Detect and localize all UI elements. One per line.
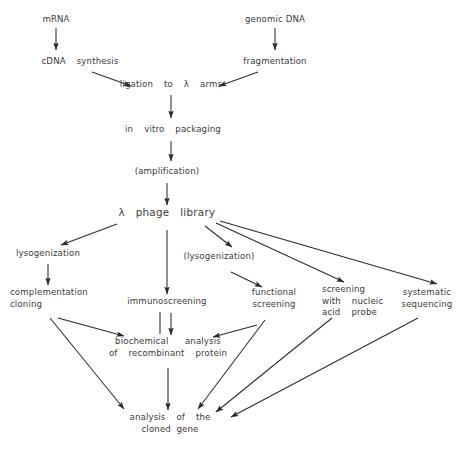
edge-library-to-lysogenization [61, 224, 117, 245]
node-ligation-to-lambda-arms: ligation to λ arms [120, 79, 222, 91]
node-in-vitro-packaging: in vitro packaging [125, 124, 221, 136]
node-lambda-phage-library: λ phage library [119, 206, 216, 219]
edge-layer [0, 0, 469, 450]
node-lysogenization: lysogenization [16, 248, 80, 260]
edge-fragmentation-to-ligation [219, 72, 258, 86]
edge-complementation-to-cloned [50, 318, 124, 409]
edge-nucleic-probe-to-cloned [216, 318, 332, 412]
edge-functional-to-cloned [198, 320, 265, 409]
node-lysogenization-parenthetical: (lysogenization) [183, 251, 254, 263]
flowchart-diagram: mRNA genomic DNA cDNA synthesis fragment… [0, 0, 469, 450]
node-biochemical-analysis: biochemical analysis of recombinant prot… [109, 336, 227, 359]
node-cdna-synthesis: cDNA synthesis [41, 56, 118, 68]
node-systematic-sequencing: systematic sequencing [402, 287, 453, 310]
node-mrna: mRNA [42, 14, 69, 26]
node-screening-with-nucleic-acid-probe: screening with nucleic acid probe [322, 284, 383, 319]
edge-complementation-to-biochem [58, 318, 124, 336]
node-immunoscreening: immunoscreening [127, 296, 206, 308]
node-functional-screening: functional screening [252, 287, 296, 310]
node-analysis-of-cloned-gene: analysis of the cloned gene [129, 412, 210, 435]
node-amplification: (amplification) [135, 166, 200, 178]
edge-library-to-lysogenization2 [205, 226, 232, 247]
node-genomic-dna: genomic DNA [245, 14, 305, 26]
node-complementation-cloning: complementation cloning [10, 287, 88, 310]
edge-lysogenization2-to-functional [231, 272, 262, 287]
node-fragmentation: fragmentation [243, 56, 306, 68]
edge-systematic-to-cloned [231, 318, 418, 417]
